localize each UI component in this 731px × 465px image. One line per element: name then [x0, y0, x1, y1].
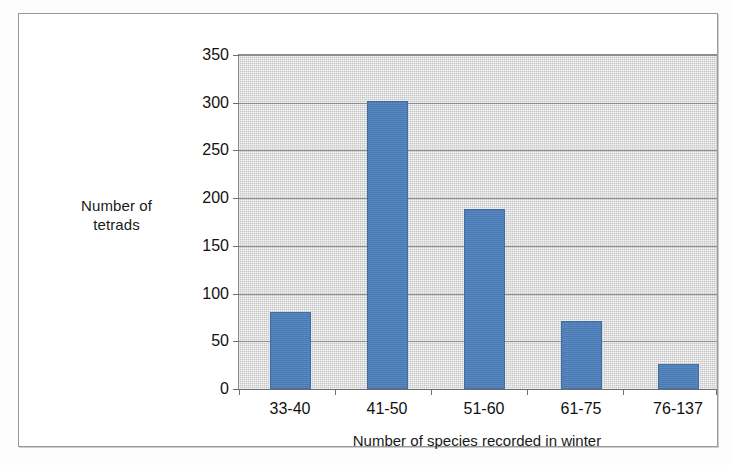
y-axis-label-50: 50 [211, 332, 229, 350]
gridline-300 [239, 103, 717, 104]
x-axis-label-61-75: 61-75 [561, 400, 602, 418]
y-tick-350 [233, 55, 239, 56]
y-tick-300 [233, 103, 239, 104]
y-axis-title-line-2: tetrads [49, 215, 184, 234]
y-tick-200 [233, 198, 239, 199]
bar-41-50[interactable] [367, 101, 408, 389]
x-tick-1 [335, 389, 336, 395]
x-tick-3 [527, 389, 528, 395]
bar-61-75[interactable] [561, 321, 602, 389]
y-axis-label-0: 0 [220, 380, 229, 398]
chart-frame: Number of tetrads 350 300 250 200 150 10… [18, 13, 718, 447]
x-tick-4 [623, 389, 624, 395]
y-axis-title-line-1: Number of [49, 196, 184, 215]
y-tick-250 [233, 150, 239, 151]
y-tick-150 [233, 246, 239, 247]
x-tick-2 [431, 389, 432, 395]
plot-area: 350 300 250 200 150 100 50 0 [238, 54, 717, 389]
y-axis-label-200: 200 [202, 189, 229, 207]
y-axis-label-250: 250 [202, 141, 229, 159]
x-axis-label-33-40: 33-40 [270, 400, 311, 418]
gridline-350 [239, 55, 717, 56]
x-axis-label-41-50: 41-50 [367, 400, 408, 418]
gridline-250 [239, 150, 717, 151]
y-tick-100 [233, 294, 239, 295]
gridline-200 [239, 198, 717, 199]
y-axis-label-100: 100 [202, 285, 229, 303]
x-axis-line [233, 389, 717, 390]
bar-76-137[interactable] [658, 364, 699, 389]
x-tick-0 [239, 389, 240, 395]
bar-33-40[interactable] [270, 312, 311, 389]
y-tick-50 [233, 341, 239, 342]
y-axis-label-300: 300 [202, 94, 229, 112]
y-axis-title: Number of tetrads [49, 196, 184, 234]
bar-51-60[interactable] [464, 209, 505, 389]
x-tick-5 [716, 389, 717, 395]
y-axis-label-150: 150 [202, 237, 229, 255]
x-axis-title: Number of species recorded in winter [238, 432, 716, 449]
scanned-page: Number of tetrads 350 300 250 200 150 10… [0, 0, 731, 465]
x-axis-label-51-60: 51-60 [464, 400, 505, 418]
y-axis-label-350: 350 [202, 46, 229, 64]
x-axis-label-76-137: 76-137 [653, 400, 703, 418]
